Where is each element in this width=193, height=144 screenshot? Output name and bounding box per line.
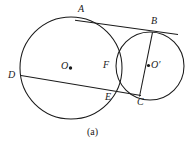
secant-line-DEC [21, 76, 141, 96]
label-point-B: B [151, 16, 157, 26]
center-dot-O-prime [147, 64, 150, 67]
label-point-C: C [137, 97, 144, 107]
center-dot-O [69, 66, 72, 69]
geometry-canvas [0, 0, 193, 144]
label-center-O-prime: O′ [151, 60, 160, 70]
label-point-F: F [103, 60, 109, 70]
figure-caption: (a) [87, 127, 98, 137]
geometry-figure: A B C D E F O O′ (a) [0, 0, 193, 144]
label-center-O: O [61, 61, 68, 71]
label-point-D: D [8, 70, 15, 80]
tangent-line-AB [75, 20, 178, 34]
label-point-A: A [78, 4, 84, 14]
label-point-E: E [105, 92, 111, 102]
